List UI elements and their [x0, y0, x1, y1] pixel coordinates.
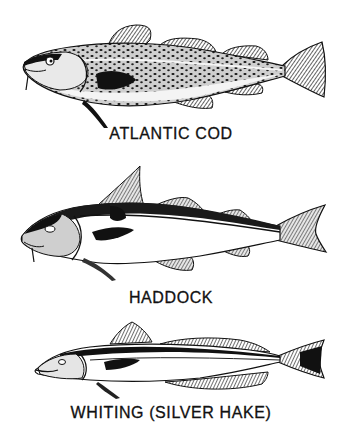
- whiting-label: WHITING (SILVER HAKE): [0, 404, 342, 422]
- atlantic-cod-label: ATLANTIC COD: [0, 125, 342, 143]
- haddock-label: HADDOCK: [0, 289, 342, 307]
- whiting-illustration: [0, 315, 342, 405]
- haddock-illustration: [0, 160, 342, 290]
- fish-identification-plate: ATLANTIC COD: [0, 0, 342, 435]
- atlantic-cod-illustration: [0, 0, 342, 135]
